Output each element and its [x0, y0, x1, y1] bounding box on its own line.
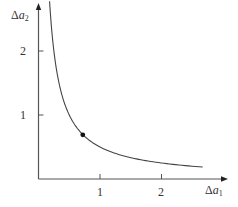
y-tick-label-2: 2 — [20, 45, 26, 57]
x-axis-label: Δa1 — [205, 184, 223, 198]
x-axis-arrow-icon — [221, 176, 228, 181]
y-axis-label-sub: 2 — [25, 14, 29, 23]
chart-canvas — [0, 0, 238, 207]
marked-point — [80, 132, 85, 137]
y-axis-arrow-icon — [36, 3, 41, 10]
x-tick-label-1: 1 — [97, 186, 103, 198]
x-ticks — [100, 174, 162, 179]
x-tick-label-2: 2 — [158, 186, 164, 198]
curve-line — [50, 1, 203, 167]
y-axis-label: Δa2 — [11, 9, 29, 23]
y-tick-label-1: 1 — [20, 109, 26, 121]
x-axis-label-symbol: Δ — [205, 183, 213, 197]
y-axis-label-symbol: Δ — [11, 8, 19, 22]
x-axis-label-sub: 1 — [219, 189, 223, 198]
y-ticks — [39, 51, 44, 115]
